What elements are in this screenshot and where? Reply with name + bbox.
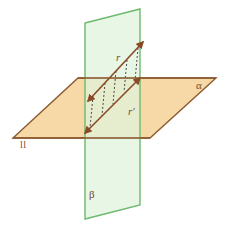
plane-beta-label: β <box>89 189 95 200</box>
plane-alpha-label: α <box>196 80 202 91</box>
line-r-prime-label: r' <box>128 106 135 117</box>
geometry-diagram: α β ll r r' <box>0 0 230 227</box>
line-r-label: r <box>116 52 120 63</box>
parallel-mark-label: ll <box>20 140 27 150</box>
geometry-canvas <box>0 0 230 227</box>
